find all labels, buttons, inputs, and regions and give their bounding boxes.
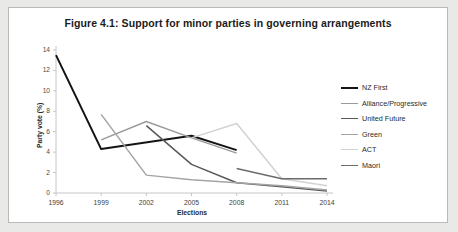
legend-item[interactable]: NZ First — [341, 80, 449, 96]
x-tick-label: 2014 — [312, 199, 342, 206]
y-tick-label: 0 — [28, 189, 50, 196]
figure-panel: Figure 4.1: Support for minor parties in… — [8, 7, 448, 223]
x-tick-label: 1999 — [86, 199, 116, 206]
legend-item[interactable]: ACT — [341, 142, 449, 158]
y-tick-label: 10 — [28, 87, 50, 94]
y-tick-label: 6 — [28, 128, 50, 135]
x-axis-title: Elections — [152, 209, 232, 216]
legend-label: Green — [362, 130, 382, 139]
y-tick-label: 8 — [28, 107, 50, 114]
chart-legend: NZ FirstAlliance/ProgressiveUnited Futur… — [341, 80, 449, 173]
series-line — [56, 55, 237, 150]
y-tick-label: 2 — [28, 169, 50, 176]
y-tick-label: 4 — [28, 148, 50, 155]
x-tick-label: 2008 — [222, 199, 252, 206]
series-line — [101, 122, 237, 154]
legend-label: Maori — [362, 161, 380, 170]
legend-item[interactable]: Maori — [341, 158, 449, 174]
y-tick-label: 12 — [28, 66, 50, 73]
legend-swatch-icon — [341, 134, 358, 135]
legend-swatch-icon — [341, 149, 358, 150]
series-line — [192, 124, 328, 186]
legend-item[interactable]: Green — [341, 127, 449, 143]
legend-item[interactable]: Alliance/Progressive — [341, 96, 449, 112]
legend-label: ACT — [362, 145, 376, 154]
legend-swatch-icon — [341, 103, 358, 104]
legend-item[interactable]: United Future — [341, 111, 449, 127]
y-tick-label: 14 — [28, 46, 50, 53]
legend-label: United Future — [362, 114, 406, 123]
legend-label: NZ First — [362, 83, 388, 92]
x-tick-label: 2005 — [177, 199, 207, 206]
series-line — [237, 168, 327, 178]
x-tick-label: 2011 — [267, 199, 297, 206]
legend-swatch-icon — [341, 118, 358, 119]
legend-swatch-icon — [341, 165, 358, 166]
x-tick-label: 2002 — [131, 199, 161, 206]
x-tick-label: 1996 — [41, 199, 71, 206]
legend-swatch-icon — [341, 87, 358, 89]
legend-label: Alliance/Progressive — [362, 99, 427, 108]
